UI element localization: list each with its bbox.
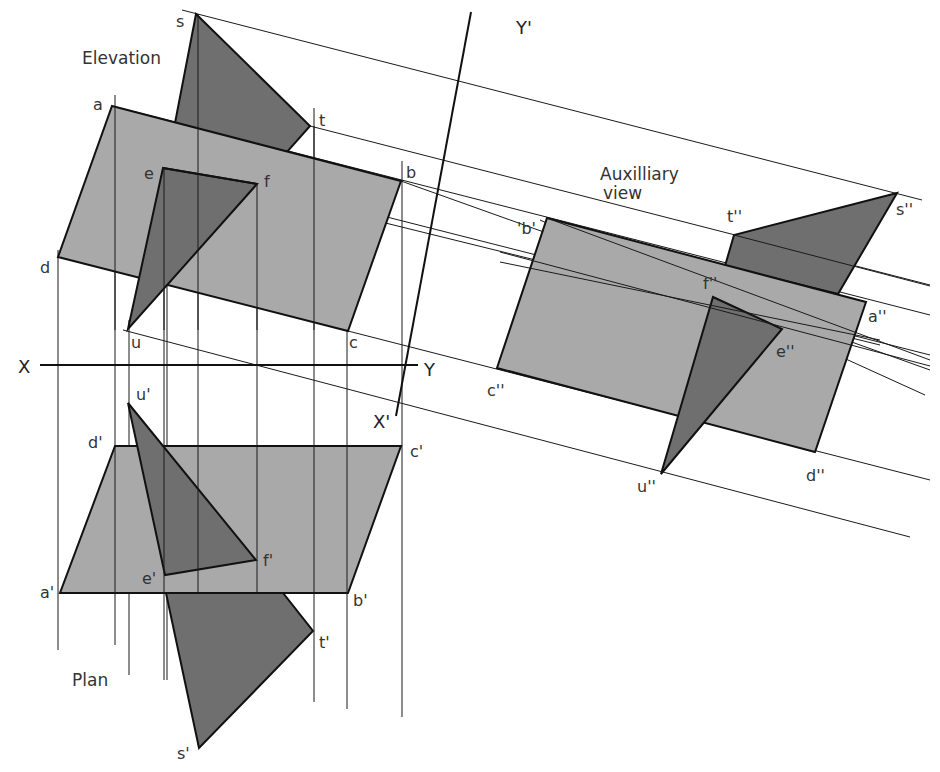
- elevation-plane-abcd: [58, 106, 401, 331]
- label-x-prime: X': [373, 411, 390, 432]
- label-f-prime: f': [263, 551, 273, 570]
- auxiliary-title-line1: Auxilliary: [600, 164, 679, 184]
- label-c-double-prime: c'': [487, 381, 505, 400]
- label-a: a: [93, 95, 103, 114]
- plan-plane-abcd: [60, 446, 401, 593]
- label-a-double-prime: a'': [868, 307, 887, 326]
- label-e-double-prime: e'': [776, 342, 795, 361]
- label-t-double-prime: t'': [727, 207, 742, 226]
- auxiliary-title-line2: view: [603, 183, 642, 203]
- plan-triangle-st-lower: [166, 593, 313, 748]
- x-prime-y-prime-reference-line: [396, 12, 471, 416]
- label-y-prime: Y': [515, 17, 532, 38]
- label-e-prime: e': [142, 569, 156, 588]
- label-e: e: [144, 164, 154, 183]
- label-s: s: [176, 12, 184, 31]
- label-f-double-prime: f'': [703, 274, 717, 293]
- label-s-double-prime: s'': [896, 200, 913, 219]
- label-d-prime: d': [88, 433, 103, 452]
- label-b: b: [406, 163, 416, 182]
- auxiliary-view: [497, 193, 930, 474]
- label-u-prime: u': [136, 385, 151, 404]
- elevation-title: Elevation: [82, 48, 161, 68]
- plan-title: Plan: [72, 670, 108, 690]
- label-t: t: [319, 111, 325, 130]
- label-t-prime: t': [319, 633, 330, 652]
- label-d-double-prime: d'': [806, 466, 825, 485]
- label-y: Y: [423, 359, 436, 380]
- label-f: f: [264, 172, 270, 191]
- label-b-prime: b': [353, 591, 368, 610]
- label-c-prime: c': [410, 442, 423, 461]
- label-c: c: [349, 333, 358, 352]
- label-x: X: [18, 356, 30, 377]
- label-u: u: [131, 333, 141, 352]
- plan-view: [60, 403, 401, 748]
- label-d: d: [40, 258, 50, 277]
- label-u-double-prime: u'': [637, 477, 656, 496]
- label-s-prime: s': [177, 744, 190, 763]
- label-a-prime: a': [40, 583, 54, 602]
- projection-drawing: Elevation Plan Auxilliary view X Y X' Y'…: [0, 0, 940, 772]
- label-b-double-prime: 'b': [517, 219, 536, 238]
